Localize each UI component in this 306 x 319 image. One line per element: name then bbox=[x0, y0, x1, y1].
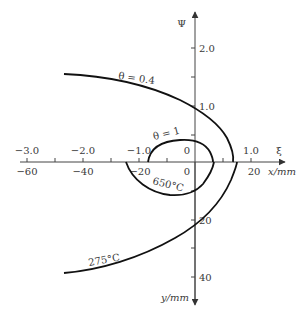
curve-theta-1 bbox=[148, 140, 213, 162]
label-theta-1: θ = 1 bbox=[152, 125, 181, 142]
psi-tick-label: 2.0 bbox=[199, 43, 215, 54]
psi-axis-label: Ψ bbox=[177, 18, 186, 29]
x-axis-ticks bbox=[27, 158, 251, 162]
x-mm-axis-label: x/mm bbox=[268, 166, 296, 177]
x-mm-tick-label: −40 bbox=[72, 166, 93, 177]
label-650c: 650°C bbox=[152, 175, 186, 193]
xi-tick-label: −1.0 bbox=[127, 145, 151, 156]
xi-tick-label: 1.0 bbox=[243, 145, 259, 156]
xi-tick-label: −2.0 bbox=[71, 145, 95, 156]
y-mm-axis-label: y/mm bbox=[160, 292, 189, 303]
isotherm-diagram: −3.0 −2.0 −1.0 0 1.0 ξ −60 −40 −20 0 20 … bbox=[0, 0, 306, 319]
horizontal-axis: −3.0 −2.0 −1.0 0 1.0 ξ −60 −40 −20 0 20 … bbox=[15, 145, 296, 177]
x-mm-tick-label: 0 bbox=[184, 166, 190, 177]
xi-tick-label: −3.0 bbox=[15, 145, 39, 156]
y-mm-tick-label: 40 bbox=[199, 272, 212, 283]
vertical-axis: Ψ 2.0 1.0 20 40 y/mm bbox=[160, 12, 215, 305]
xi-axis-label: ξ bbox=[276, 145, 282, 156]
x-mm-tick-label: −60 bbox=[16, 166, 37, 177]
psi-tick-label: 1.0 bbox=[199, 101, 215, 112]
x-mm-tick-label: 20 bbox=[248, 166, 261, 177]
xi-tick-label: 0 bbox=[184, 145, 190, 156]
